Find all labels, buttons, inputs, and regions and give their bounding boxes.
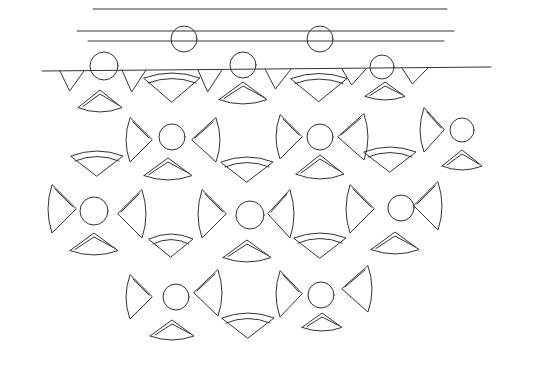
notch-shape [342,69,366,85]
fan-shape [71,151,123,176]
notch-shape [198,70,222,92]
fan-shape [294,233,346,258]
top-notches [60,68,428,92]
petal-shape [192,118,220,162]
petal-inner-line [341,118,361,135]
petal-inner-line [283,275,299,292]
right-petals [118,114,442,316]
fan-inner-arc [148,79,196,84]
ring-circle [171,26,197,52]
lace-pattern-diagram [0,0,536,384]
petal-inner-line [283,119,299,135]
fan-inner-arc [225,163,269,168]
fan-shape [302,313,342,331]
petal-shape [48,185,76,233]
petal-inner-line [121,194,139,212]
petal-inner-line [55,189,73,207]
petal-shape [268,190,294,238]
fan-inner-arc [368,153,412,158]
ring-circle [388,195,414,221]
fan-inner-line [75,237,115,250]
fan-shape [222,313,274,338]
petal-inner-line [271,194,287,212]
petal-shape [276,271,302,317]
notch-shape [60,71,84,91]
fan-shape [371,232,419,254]
ring-circle [80,197,108,225]
fan-shape [442,150,482,170]
petal-shape [414,182,442,230]
fan-shape [219,82,267,104]
ring-circle [163,284,189,310]
petal-inner-line [353,189,371,207]
ring-circle [308,282,334,308]
ring-circle [450,118,474,142]
notch-shape [265,69,291,89]
fan-inner-line [149,162,189,175]
fan-shape [78,90,122,112]
fan-inner-line [376,236,416,249]
petal-inner-line [427,112,441,128]
petal-shape [338,114,368,160]
ring-circle [236,201,264,229]
petal-shape [420,108,444,152]
notch-shape [402,68,428,84]
fan-shape [149,234,193,257]
fan-shape [150,320,194,340]
horizontal-threads [42,9,491,71]
petal-inner-line [133,279,149,295]
fan-shape [291,74,347,102]
petal-shape [276,115,302,159]
fan-shape [221,157,273,182]
ring-circle [90,52,118,80]
petal-inner-line [133,122,149,138]
fan-shape [365,82,405,100]
fan-shape [223,240,271,262]
fan-shape [144,158,192,180]
petal-shape [198,190,226,238]
fan-shape [70,233,118,255]
petal-shape [126,275,152,319]
ring-circle [307,26,333,52]
fan-inner-line [228,244,268,257]
fan-inner-arc [75,157,119,162]
ring-circle [307,124,333,150]
petal-shape [118,190,146,238]
thread-line [42,67,491,71]
fan-inner-arc [295,79,343,84]
fan-inner-arc [153,240,189,245]
petal-shape [126,118,152,162]
fan-inner-line [224,86,264,99]
petal-shape [194,270,222,316]
notch-shape [122,70,146,92]
petal-inner-line [205,194,223,212]
petal-inner-line [195,122,213,138]
ring-circle [159,124,185,150]
lace-pattern-canvas [0,0,536,384]
fan-inner-arc [226,319,270,324]
ring-circle [230,52,256,78]
ring-circle [370,55,394,79]
petal-inner-line [345,270,365,287]
fan-shape [144,73,200,102]
petal-inner-line [197,274,215,291]
petal-shape [342,266,372,312]
downward-fans [71,73,416,338]
petal-shape [346,185,374,233]
fan-shape [364,147,416,172]
petal-inner-line [417,186,435,204]
fan-inner-arc [298,239,342,244]
